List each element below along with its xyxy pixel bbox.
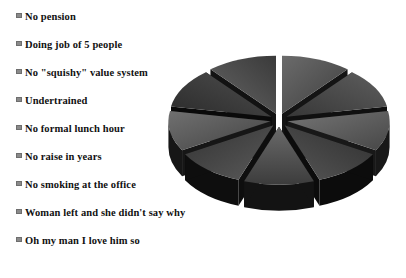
pie-chart-graphic [160, 46, 403, 211]
legend-item[interactable]: Woman left and she didn't say why [16, 207, 216, 235]
legend-item-label: No "squishy" value system [25, 67, 148, 78]
legend-swatch-icon [16, 153, 22, 158]
legend-item-label: Undertrained [25, 95, 87, 106]
legend-item-label: Doing job of 5 people [25, 39, 122, 50]
pie-chart-figure: No pensionDoing job of 5 peopleNo "squis… [0, 0, 406, 278]
legend-swatch-icon [16, 69, 22, 74]
legend-item-label: No formal lunch hour [25, 123, 125, 134]
legend-item[interactable]: Oh my man I love him so [16, 235, 216, 263]
legend-swatch-icon [16, 125, 22, 130]
legend-item-label: No pension [25, 11, 76, 22]
legend-swatch-icon [16, 181, 22, 186]
legend-swatch-icon [16, 97, 22, 102]
pie-slice-tops [168, 56, 389, 185]
legend-item-label: No raise in years [25, 151, 102, 162]
legend-swatch-icon [16, 41, 22, 46]
legend-item-label: No smoking at the office [25, 179, 136, 190]
legend-item-label: Oh my man I love him so [25, 235, 140, 246]
legend-item[interactable]: No pension [16, 11, 216, 39]
pie-chart-svg [160, 46, 403, 211]
legend-swatch-icon [16, 209, 22, 214]
legend-swatch-icon [16, 237, 22, 242]
legend-swatch-icon [16, 13, 22, 18]
